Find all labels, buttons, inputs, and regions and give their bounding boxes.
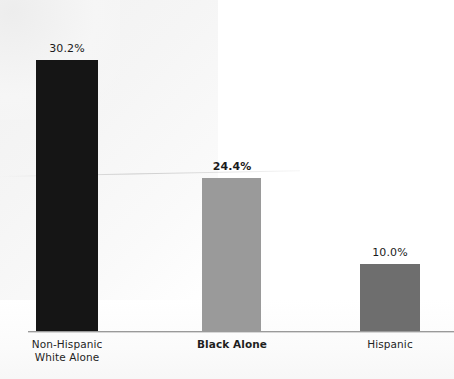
chart-page: 30.2% Non-Hispanic White Alone 24.4% Bla… [0, 0, 454, 379]
bar-value-label-hispanic: 10.0% [359, 246, 421, 259]
category-label-hispanic: Hispanic [330, 338, 450, 351]
x-axis-baseline-shadow [28, 332, 454, 333]
bar-hispanic[interactable] [360, 264, 420, 331]
category-label-black-alone: Black Alone [172, 338, 292, 351]
category-label-non-hispanic-white-alone: Non-Hispanic White Alone [7, 338, 127, 364]
bar-chart-plot-area: 30.2% Non-Hispanic White Alone 24.4% Bla… [0, 0, 454, 379]
bar-non-hispanic-white-alone[interactable] [36, 60, 98, 331]
bar-value-label-non-hispanic-white-alone: 30.2% [36, 42, 98, 55]
bar-value-label-black-alone: 24.4% [201, 160, 263, 173]
bar-black-alone[interactable] [202, 178, 261, 331]
